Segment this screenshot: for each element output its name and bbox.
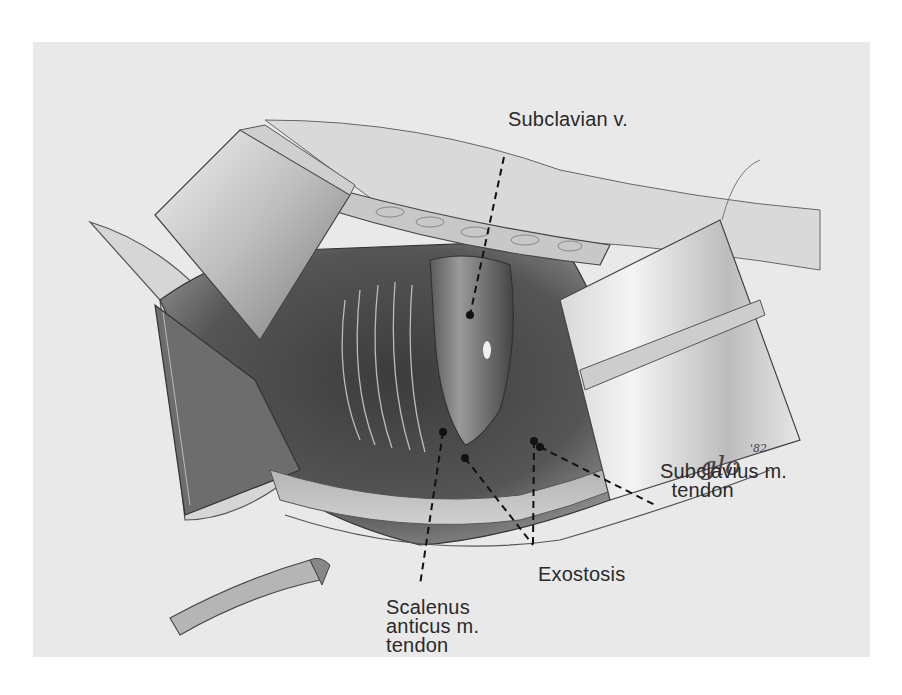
label-scalenus-anticus-tendon: Scalenus anticus m. tendon [386, 598, 479, 655]
illustration-panel: glo '82 Subclavian v. Subclavius m. tend… [33, 42, 870, 657]
svg-text:'82: '82 [750, 442, 767, 455]
surgical-field-drawing: glo '82 [33, 42, 870, 657]
leader-exostosis-b [533, 441, 534, 545]
label-subclavian-vein: Subclavian v. [508, 109, 628, 129]
label-subclavius-tendon: Subclavius m. tendon [660, 462, 787, 500]
label-exostosis: Exostosis [538, 564, 625, 584]
